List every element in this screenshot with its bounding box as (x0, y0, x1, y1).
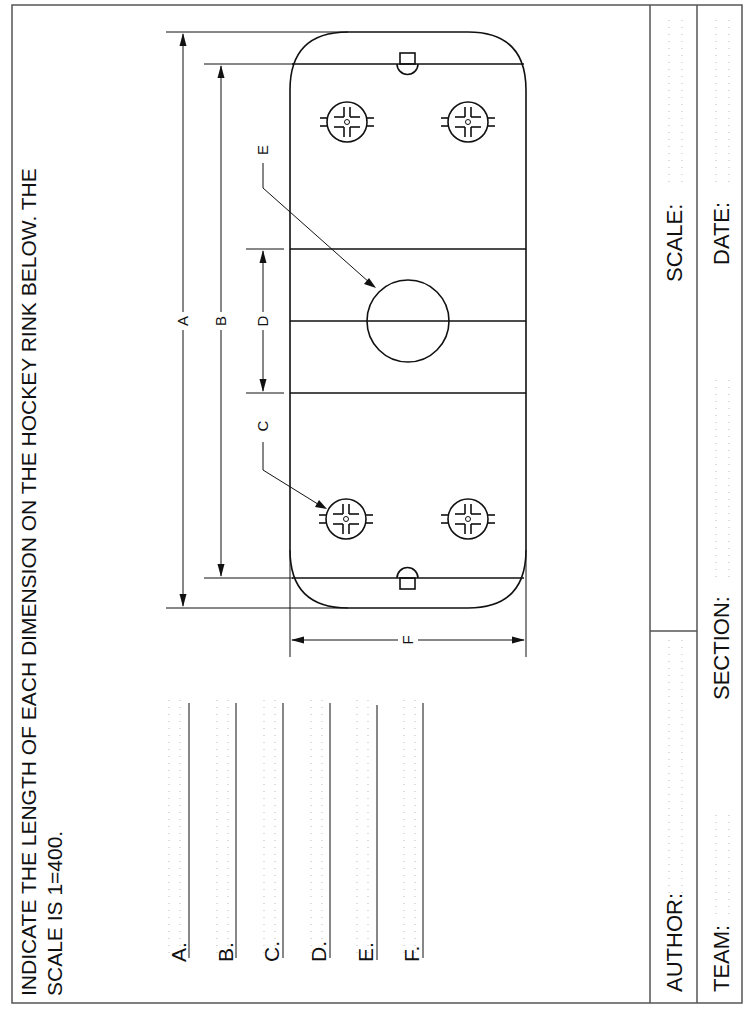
instructions: INDICATE THE LENGTH OF EACH DIMENSION ON… (17, 168, 66, 996)
instruction-line-1: INDICATE THE LENGTH OF EACH DIMENSION ON… (17, 168, 40, 996)
goal-crease-icon (397, 53, 418, 75)
dimension-label-d: D (254, 315, 271, 326)
team-label: TEAM: (709, 925, 734, 992)
worksheet-page: INDICATE THE LENGTH OF EACH DIMENSION ON… (0, 0, 749, 1012)
dimension-label-b: B (212, 316, 229, 326)
answer-f[interactable]: F. (400, 700, 423, 962)
dimension-label-a: A (174, 316, 191, 326)
scale-label: SCALE: (662, 204, 687, 282)
hockey-rink-drawing: A B D C E (166, 32, 526, 657)
answer-c[interactable]: C. (260, 700, 283, 962)
dimension-label-f: F (399, 635, 416, 644)
section-label: SECTION: (709, 596, 734, 700)
dimension-b: B (212, 65, 229, 577)
answer-a[interactable]: A. (167, 700, 190, 962)
dimension-f: F (291, 635, 525, 644)
date-label: DATE: (709, 202, 734, 265)
dimension-a: A (174, 33, 191, 607)
answer-section: A. B. C. D. E. F. (167, 700, 423, 962)
answer-label-c: C. (260, 941, 283, 962)
faceoff-circle-icon (441, 499, 495, 539)
answer-label-d: D. (307, 941, 330, 962)
dimension-label-c: C (254, 420, 271, 431)
title-block: AUTHOR: SCALE: TEAM: SECTION: DATE: (650, 5, 734, 1003)
dimension-d: D (254, 250, 271, 392)
faceoff-circle-icon (320, 102, 374, 142)
instruction-line-2: SCALE IS 1=400. (43, 831, 66, 996)
author-label: AUTHOR: (662, 893, 687, 992)
answer-label-a: A. (167, 942, 190, 962)
leader-e: E (254, 145, 376, 288)
dimension-label-e: E (254, 145, 271, 155)
answer-d[interactable]: D. (307, 700, 330, 962)
answer-e[interactable]: E. (354, 700, 377, 962)
goal-crease-icon (397, 568, 418, 590)
faceoff-circle-icon (441, 102, 495, 142)
faceoff-circle-icon (319, 499, 373, 539)
answer-label-f: F. (400, 946, 423, 962)
answer-b[interactable]: B. (214, 700, 237, 962)
